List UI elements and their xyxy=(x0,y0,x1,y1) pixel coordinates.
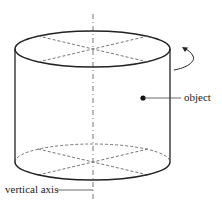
vertical-axis-label: vertical axis xyxy=(5,183,58,195)
cylinder-diagram: object vertical axis xyxy=(0,0,222,208)
rotation-arrow-icon xyxy=(174,49,194,70)
object-label: object xyxy=(184,91,211,103)
